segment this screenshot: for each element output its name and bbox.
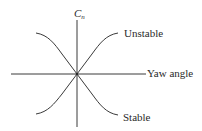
stability-diagram — [0, 0, 202, 131]
y-axis-label-subscript: n — [81, 13, 85, 21]
unstable-label: Unstable — [124, 28, 163, 39]
origin-point — [76, 73, 79, 76]
stable-label: Stable — [123, 112, 151, 123]
y-axis-label: Cn — [74, 8, 85, 21]
x-axis-label: Yaw angle — [147, 68, 193, 79]
